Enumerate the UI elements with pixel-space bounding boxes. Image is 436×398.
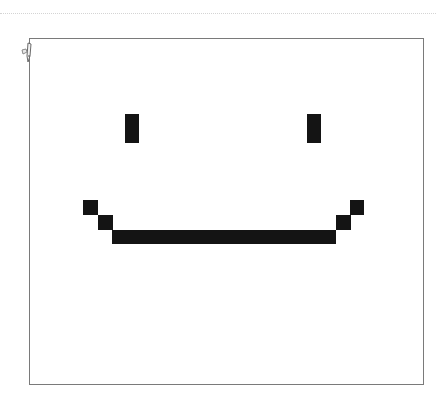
mouth-left-top-pixel — [83, 200, 98, 215]
mouth-left-mid-pixel — [98, 215, 113, 230]
mouth-right-top-pixel — [350, 200, 364, 215]
drawing-app — [0, 0, 436, 398]
mouth-right-mid-pixel — [336, 215, 351, 230]
top-divider — [0, 13, 436, 14]
right-eye-pixel — [307, 114, 321, 143]
left-eye-pixel — [125, 114, 139, 143]
mouth-bar-pixels — [112, 230, 336, 244]
pencil-icon — [19, 42, 33, 64]
